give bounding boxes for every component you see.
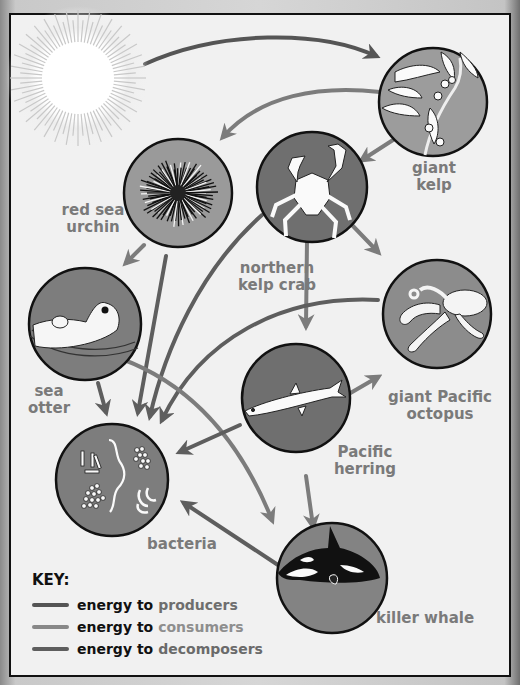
pacific-herring-node[interactable] bbox=[242, 344, 350, 452]
label-pacific-herring: Pacificherring bbox=[330, 444, 400, 478]
label-giant-pacific-octopus: giant Pacificoctopus bbox=[387, 389, 493, 423]
label-giant-kelp: giantkelp bbox=[400, 160, 468, 194]
label-northern-kelp-crab: northernkelp crab bbox=[232, 260, 322, 294]
legend-item-decomposers: energy to decomposers bbox=[32, 638, 263, 660]
arrow-kelp-to-crab bbox=[362, 140, 393, 160]
giant-kelp-node[interactable] bbox=[379, 48, 487, 156]
legend-title: KEY: bbox=[32, 571, 263, 589]
arrow-sun-to-kelp bbox=[145, 37, 376, 64]
giant-pacific-octopus-node[interactable] bbox=[383, 260, 491, 368]
consumers-line-swatch bbox=[32, 625, 69, 629]
legend-item-producers: energy to producers bbox=[32, 594, 263, 616]
arrow-otter-to-bacteria bbox=[98, 383, 106, 412]
legend: KEY: energy to producers energy to consu… bbox=[32, 571, 263, 660]
arrow-kelp-to-urchin bbox=[223, 90, 380, 137]
arrow-urchin-to-otter bbox=[126, 245, 144, 263]
arrow-herring-to-killer-whale bbox=[306, 476, 313, 526]
arrow-urchin-to-bacteria bbox=[138, 256, 166, 412]
decomposers-line-swatch bbox=[32, 647, 69, 651]
sun-icon bbox=[6, 6, 150, 150]
bacteria-node[interactable] bbox=[56, 424, 168, 536]
producers-line-swatch bbox=[32, 603, 69, 607]
sea-otter-node[interactable] bbox=[29, 268, 141, 380]
label-killer-whale: killer whale bbox=[370, 610, 480, 627]
label-bacteria: bacteria bbox=[146, 536, 218, 553]
northern-kelp-crab-node[interactable] bbox=[257, 132, 367, 242]
red-sea-urchin-node[interactable] bbox=[124, 139, 232, 247]
arrow-killer-whale-to-bacteria bbox=[184, 503, 278, 565]
arrow-crab-to-octopus bbox=[352, 225, 378, 252]
label-red-sea-urchin: red seaurchin bbox=[58, 202, 128, 236]
label-sea-otter: seaotter bbox=[24, 383, 74, 417]
arrow-herring-to-octopus bbox=[347, 377, 378, 395]
legend-item-consumers: energy to consumers bbox=[32, 616, 263, 638]
arrow-herring-to-bacteria bbox=[180, 425, 240, 452]
